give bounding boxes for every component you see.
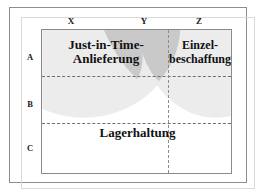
region-label-einzelbeschaffung-line2: beschaffung [168, 52, 232, 66]
column-header-x: X [58, 14, 84, 28]
region-label-just-in-time-line2: Anlieferung [46, 52, 166, 66]
matrix-grid: Just-in-Time- Anlieferung Einzel- bescha… [41, 29, 232, 174]
region-label-lagerhaltung: Lagerhaltung [42, 126, 232, 140]
row-header-c: C [22, 143, 38, 153]
region-label-lagerhaltung-line1: Lagerhaltung [42, 126, 232, 140]
region-label-just-in-time-line1: Just-in-Time- [46, 38, 166, 52]
column-header-z: Z [186, 14, 212, 28]
region-label-just-in-time: Just-in-Time- Anlieferung [46, 38, 166, 66]
region-label-einzelbeschaffung-line1: Einzel- [168, 38, 232, 52]
figure-root: X Y Z A B C Just-in- [0, 0, 256, 190]
row-divider-b-c [42, 123, 231, 124]
row-header-a: A [22, 52, 38, 62]
region-label-einzelbeschaffung: Einzel- beschaffung [168, 38, 232, 66]
row-divider-a-b [42, 76, 231, 77]
column-header-y: Y [131, 14, 157, 28]
row-header-b: B [22, 99, 38, 109]
